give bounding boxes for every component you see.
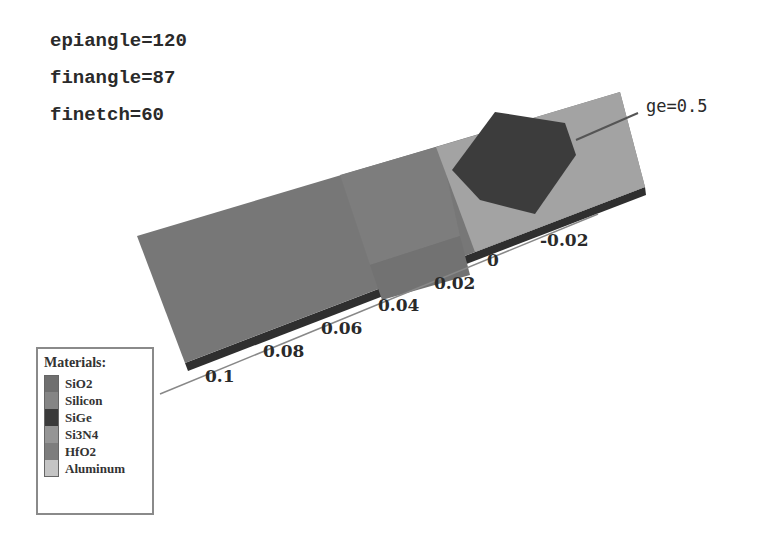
legend-item-si3n4: Si3N4 xyxy=(44,426,152,443)
legend-label: Silicon xyxy=(65,393,103,409)
legend-item-sige: SiGe xyxy=(44,409,152,426)
swatch-aluminum xyxy=(44,460,59,477)
swatch-hfo2 xyxy=(44,443,59,460)
swatch-si3n4 xyxy=(44,426,59,443)
legend-item-aluminum: Aluminum xyxy=(44,460,152,477)
legend-title: Materials: xyxy=(44,355,152,371)
z-tick-0.02: 0.02 xyxy=(434,273,475,293)
legend-item-hfo2: HfO2 xyxy=(44,443,152,460)
swatch-sige xyxy=(44,409,59,426)
swatch-silicon xyxy=(44,392,59,409)
legend-label: HfO2 xyxy=(65,444,96,460)
z-tick-0.06: 0.06 xyxy=(321,318,362,338)
swatch-sio2 xyxy=(44,375,59,392)
z-tick-0: 0 xyxy=(487,250,499,270)
legend-item-silicon: Silicon xyxy=(44,392,152,409)
z-tick-0.08: 0.08 xyxy=(263,341,304,361)
legend-label: Aluminum xyxy=(65,461,125,477)
materials-legend: Materials: SiO2 Silicon SiGe Si3N4 HfO2 … xyxy=(36,347,154,515)
z-tick-0.1: 0.1 xyxy=(205,366,235,386)
z-tick-0.04: 0.04 xyxy=(378,295,419,315)
legend-item-sio2: SiO2 xyxy=(44,375,152,392)
z-tick-neg0.02: -0.02 xyxy=(540,230,588,250)
legend-label: Si3N4 xyxy=(65,427,98,443)
legend-label: SiO2 xyxy=(65,376,92,392)
legend-label: SiGe xyxy=(65,410,92,426)
ge-annotation: ge=0.5 xyxy=(646,96,707,116)
